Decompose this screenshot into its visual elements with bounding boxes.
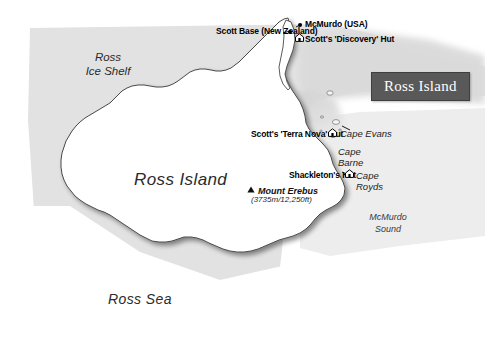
scott-base-dot-marker [288,30,292,34]
label-mount-erebus-elevation: (3735m/12,250ft) [251,195,312,204]
cape-barne-line2: Barne [338,157,363,168]
label-mcmurdo-sound: McMurdo Sound [357,212,419,235]
map-title-text: Ross Island [384,78,457,94]
label-discovery-hut: Scott's 'Discovery' Hut [305,35,394,45]
label-cape-evans: Cape Evans [340,128,392,139]
ross-ice-shelf-line2: Ice Shelf [72,64,144,78]
label-ross-ice-shelf: Ross Ice Shelf [72,50,144,79]
label-cape-royds: Cape Royds [356,170,383,193]
mount-erebus-peak-icon [247,186,255,193]
map-title-plaque: Ross Island [371,72,470,101]
label-ross-sea: Ross Sea [108,291,172,307]
cape-barne-line1: Cape [338,146,363,157]
label-mcmurdo-station: McMurdo (USA) [305,20,367,30]
discovery-hut-icon [295,33,304,42]
shackletons-hut-icon [345,169,354,178]
label-cape-barne: Cape Barne [338,146,363,169]
mcmurdo-sound-line2: Sound [357,224,419,236]
cape-royds-line2: Royds [356,181,383,192]
mcmurdo-station-dot-marker [298,23,302,27]
cape-royds-line1: Cape [356,170,383,181]
terra-nova-hut-icon [328,128,337,137]
mcmurdo-sound-line1: McMurdo [357,212,419,224]
ross-ice-shelf-line1: Ross [72,50,144,64]
ross-island-map: Ross Ice Shelf Ross Island Ross Sea McMu… [0,0,485,362]
label-ross-island: Ross Island [134,170,227,190]
